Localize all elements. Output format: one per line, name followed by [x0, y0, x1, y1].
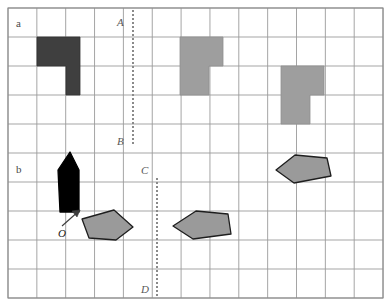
origin-point-label: O [58, 228, 66, 239]
axis-label-B: B [117, 136, 124, 147]
figure-canvas [0, 0, 388, 306]
axis-label-D: D [141, 284, 149, 295]
panel-label-b: b [16, 164, 22, 175]
grid-figure: ab ABCD O [0, 0, 388, 306]
axis-label-C: C [141, 165, 148, 176]
axis-label-A: A [117, 17, 124, 28]
panel-label-a: a [16, 18, 21, 29]
